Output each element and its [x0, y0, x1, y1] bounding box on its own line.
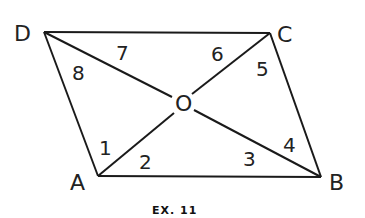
figure-caption: EX. 11 [152, 204, 197, 217]
diagonal-do [44, 32, 172, 97]
angle-5-label: 5 [256, 57, 269, 81]
diagonal-ob [194, 110, 321, 177]
vertex-c-label: C [277, 22, 292, 47]
angle-3-label: 3 [243, 147, 256, 171]
vertex-b-label: B [329, 170, 344, 195]
angle-1-label: 1 [99, 136, 112, 160]
vertex-a-label: A [70, 170, 85, 195]
parallelogram-diagram: D C A B O 1 2 3 4 5 6 7 8 EX. 11 [0, 0, 365, 218]
angle-4-label: 4 [283, 133, 296, 157]
side-dc [44, 32, 270, 33]
angle-2-label: 2 [139, 150, 152, 174]
vertex-d-label: D [14, 21, 31, 46]
angle-8-label: 8 [72, 61, 85, 85]
angle-7-label: 7 [116, 41, 129, 65]
center-o-label: O [175, 91, 192, 116]
side-da [44, 32, 98, 176]
side-ab [98, 176, 321, 177]
angle-6-label: 6 [211, 42, 224, 66]
